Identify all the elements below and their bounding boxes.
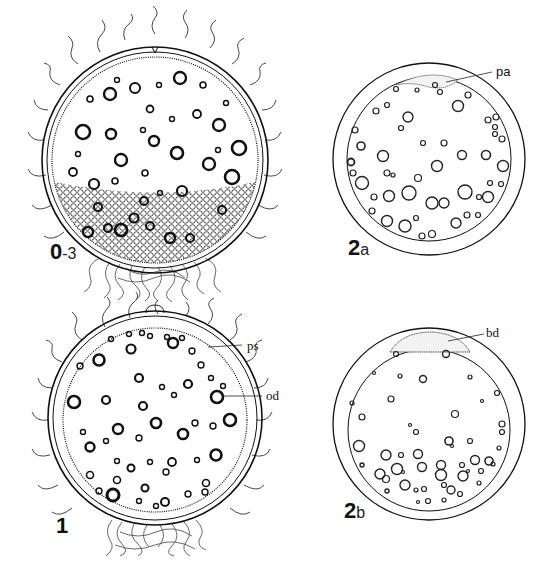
annotation-ps: ps: [247, 338, 259, 353]
stage-label-0-3: 0-3: [50, 239, 77, 264]
panel-1: ps od 1: [32, 292, 280, 556]
annotation-pa: pa: [496, 64, 511, 79]
blastodisc: [390, 332, 470, 352]
yolk-membrane: [63, 328, 247, 512]
stage-label-2a: 2a: [348, 235, 369, 260]
granular-yolk: [45, 180, 265, 270]
bottom-filament-tuft: [84, 258, 221, 302]
panel-2a: pa: [333, 63, 525, 260]
oil-droplets: [348, 83, 509, 240]
stage-label-2b: 2b: [344, 498, 365, 523]
annotation-od: od: [266, 388, 280, 403]
stage-label-1: 1: [56, 513, 68, 538]
chorion: [333, 328, 525, 520]
annotation-bd: bd: [486, 325, 500, 340]
leader-line-ps: [208, 345, 242, 347]
figure-canvas: 0-3 pa: [0, 0, 557, 572]
chorion: [333, 63, 525, 255]
panel-0-3: 0-3: [28, 6, 282, 302]
oil-droplets: [350, 351, 505, 504]
panel-2b: bd: [333, 325, 525, 523]
